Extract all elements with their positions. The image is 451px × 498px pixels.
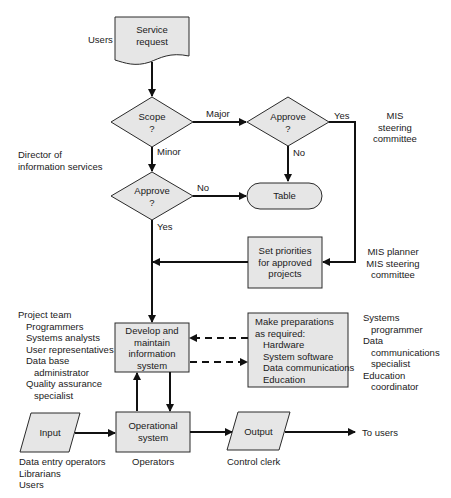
support-staff-line: Data	[363, 335, 440, 347]
service-request-label: Service request	[115, 24, 189, 47]
role-mis-planner: MIS planner MIS steering committee	[358, 246, 428, 281]
develop-label: Develop and maintain information system	[115, 325, 189, 371]
service-request-line1: Service	[115, 24, 189, 36]
develop-line4: system	[115, 360, 189, 372]
approve-minor-line1: Approve	[122, 185, 182, 197]
output-label: Output	[227, 426, 290, 438]
edge-label-no-major: No	[293, 147, 305, 159]
role-input: Data entry operators Librarians Users	[19, 456, 106, 491]
preparations-label: Make preparations as required: Hardware …	[255, 316, 354, 385]
develop-line3: information	[115, 348, 189, 360]
role-mis-committee: MIS steering committee	[360, 110, 430, 145]
edge-label-major: Major	[206, 108, 230, 120]
approve-major-label: Approve ?	[258, 111, 318, 134]
support-staff-line: coordinator	[363, 381, 440, 393]
project-team-member: Quality assurance	[18, 378, 114, 390]
operational-line2: system	[116, 432, 190, 444]
set-priorities-line2: for approved	[248, 257, 322, 269]
project-team-title: Project team	[18, 309, 114, 321]
approve-major-line2: ?	[258, 123, 318, 135]
edge-label-to-users: To users	[362, 427, 398, 439]
preparations-title1: Make preparations	[255, 316, 354, 328]
support-staff-line: programmer	[363, 324, 440, 336]
table-label: Table	[247, 190, 322, 202]
input-role-line: Data entry operators	[19, 456, 106, 468]
edge-label-minor: Minor	[157, 146, 181, 158]
director-line1: Director of	[18, 149, 102, 161]
develop-line2: maintain	[115, 337, 189, 349]
director-line2: information services	[18, 161, 102, 173]
edge-label-yes-major: Yes	[334, 110, 350, 122]
project-team-member: Systems analysts	[18, 332, 114, 344]
input-role-line: Users	[19, 479, 106, 491]
support-staff-line: Education	[363, 370, 440, 382]
preparations-item: Data communications	[255, 362, 354, 374]
service-request-line2: request	[115, 36, 189, 48]
role-operators: Operators	[132, 456, 174, 468]
scope-label: Scope ?	[122, 111, 182, 134]
edge-label-yes-minor: Yes	[157, 221, 173, 233]
project-team-member: User representatives	[18, 344, 114, 356]
support-staff-line: communications	[363, 347, 440, 359]
project-team-member: Programmers	[18, 321, 114, 333]
develop-line1: Develop and	[115, 325, 189, 337]
input-label: Input	[20, 427, 80, 439]
mis-planner-line2: MIS steering	[358, 258, 428, 270]
input-role-line: Librarians	[19, 468, 106, 480]
role-project-team: Project team Programmers Systems analyst…	[18, 309, 114, 401]
mis-committee-line3: committee	[360, 133, 430, 145]
preparations-item: System software	[255, 351, 354, 363]
role-users: Users	[88, 34, 113, 46]
mis-planner-line3: committee	[358, 269, 428, 281]
role-director: Director of information services	[18, 149, 102, 172]
approve-major-line1: Approve	[258, 111, 318, 123]
project-team-member: specialist	[18, 390, 114, 402]
support-staff-line: Systems	[363, 312, 440, 324]
role-control-clerk: Control clerk	[227, 456, 280, 468]
operational-label: Operational system	[116, 420, 190, 443]
preparations-title2: as required:	[255, 328, 354, 340]
edge-label-no-minor: No	[197, 182, 209, 194]
set-priorities-label: Set priorities for approved projects	[248, 245, 322, 280]
mis-planner-line1: MIS planner	[358, 246, 428, 258]
approve-minor-label: Approve ?	[122, 185, 182, 208]
scope-line2: ?	[122, 123, 182, 135]
mis-committee-line2: steering	[360, 122, 430, 134]
project-team-member: Data base	[18, 355, 114, 367]
mis-committee-line1: MIS	[360, 110, 430, 122]
project-team-member: administrator	[18, 367, 114, 379]
set-priorities-line1: Set priorities	[248, 245, 322, 257]
set-priorities-line3: projects	[248, 268, 322, 280]
preparations-item: Education	[255, 374, 354, 386]
support-staff-line: specialist	[363, 358, 440, 370]
operational-line1: Operational	[116, 420, 190, 432]
role-support-staff: Systems programmer Data communications s…	[363, 312, 440, 393]
scope-line1: Scope	[122, 111, 182, 123]
approve-minor-line2: ?	[122, 197, 182, 209]
preparations-item: Hardware	[255, 339, 354, 351]
